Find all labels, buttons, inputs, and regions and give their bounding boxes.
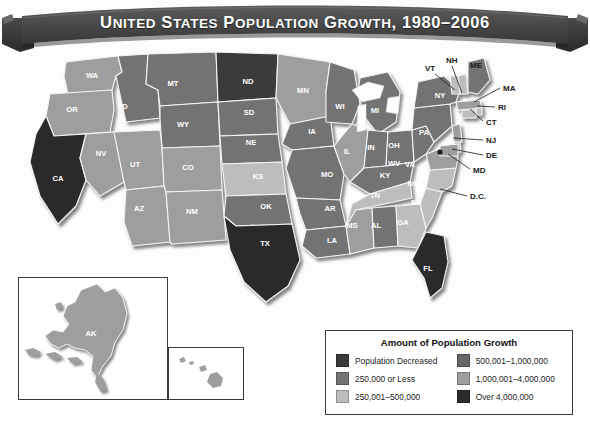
state-label-al: AL — [371, 221, 381, 230]
state-or — [46, 90, 114, 136]
state-label-wi: WI — [335, 102, 344, 111]
legend-swatch-t5 — [457, 390, 470, 403]
legend-swatch-t1 — [336, 372, 349, 385]
state-wy — [160, 102, 220, 148]
map-legend: Amount of Population Growth Population D… — [325, 330, 573, 415]
state-label-ut: UT — [130, 160, 140, 169]
state-label-ia: IA — [308, 127, 316, 136]
legend-label-t4: 1,000,001–4,000,000 — [476, 374, 555, 384]
aleutian-islands-2 — [45, 352, 63, 360]
state-label-nd: ND — [243, 77, 254, 86]
state-label-oh: OH — [388, 141, 399, 150]
hawaii-island-oahu — [189, 361, 194, 365]
legend-column-left: Population Decreased250,000 or Less250,0… — [336, 354, 445, 403]
state-tx — [224, 216, 300, 302]
aleutian-islands-3 — [67, 357, 83, 364]
lake-huron — [386, 96, 400, 114]
hawaii-inset-box: HI — [168, 347, 244, 400]
callout-label-de: DE — [486, 151, 498, 160]
state-label-la: LA — [327, 236, 338, 245]
state-label-or: OR — [66, 105, 78, 114]
hawaii-island-maui — [199, 365, 207, 372]
legend-swatch-decreased — [336, 354, 349, 367]
hawaii-label: HI — [194, 373, 202, 382]
callout-label-ri: RI — [498, 103, 506, 112]
state-vt — [450, 76, 460, 94]
state-sd — [218, 98, 278, 136]
state-label-tn: TN — [370, 191, 380, 200]
state-ri — [476, 108, 482, 115]
state-label-mn: MN — [297, 86, 309, 95]
callout-label-me: ME — [470, 61, 483, 70]
state-ok — [224, 194, 292, 226]
state-label-in: IN — [367, 143, 375, 152]
state-label-nm: NM — [186, 207, 198, 216]
legend-item-right-2: Over 4,000,000 — [457, 390, 562, 403]
aleutian-islands — [25, 348, 41, 356]
callout-label-ct: CT — [486, 118, 497, 127]
legend-item-left-0: Population Decreased — [336, 354, 445, 367]
callout-label-nj: NJ — [486, 136, 496, 145]
legend-label-t2: 250,001–500,000 — [355, 392, 420, 402]
state-label-wv: WV — [388, 159, 401, 168]
state-label-ky: KY — [380, 171, 391, 180]
state-label-fl: FL — [423, 264, 433, 273]
hawaii-island-big — [207, 372, 223, 388]
state-label-sc: SC — [411, 198, 422, 207]
state-label-tx: TX — [260, 239, 270, 248]
state-label-id: ID — [120, 102, 128, 111]
callout-label-dc: D.C. — [470, 192, 486, 201]
hawaii-island-kauai — [179, 357, 186, 363]
legend-item-right-1: 1,000,001–4,000,000 — [457, 372, 562, 385]
lake-michigan — [357, 104, 366, 132]
state-label-ny: NY — [435, 91, 446, 100]
callout-label-md: MD — [473, 166, 486, 175]
legend-label-decreased: Population Decreased — [355, 356, 437, 366]
alaska-island-small — [55, 302, 63, 310]
state-label-nv: NV — [96, 149, 107, 158]
legend-label-t3: 500,001–1,000,000 — [476, 356, 548, 366]
alaska-map-graphic: AK — [19, 278, 166, 398]
state-label-il: IL — [344, 147, 351, 156]
state-nj — [452, 124, 462, 142]
callout-label-vt: VT — [425, 64, 435, 73]
state-label-az: AZ — [134, 204, 144, 213]
state-az — [124, 186, 170, 246]
callout-label-nh: NH — [446, 56, 458, 65]
legend-swatch-t3 — [457, 354, 470, 367]
alaska-panhandle — [95, 374, 107, 392]
state-dc-marker — [437, 149, 442, 154]
state-ct — [462, 110, 476, 118]
legend-swatch-t2 — [336, 390, 349, 403]
state-label-wy: WY — [177, 120, 189, 129]
state-label-ne: NE — [246, 138, 257, 147]
state-label-ca: CA — [53, 174, 64, 183]
legend-column-right: 500,001–1,000,0001,000,001–4,000,000Over… — [455, 354, 562, 403]
callout-label-ma: MA — [503, 84, 516, 93]
state-nc — [426, 168, 456, 192]
state-label-co: CO — [182, 163, 193, 172]
legend-label-t5: Over 4,000,000 — [476, 392, 534, 402]
hawaii-map-graphic: HI — [169, 348, 242, 398]
legend-item-right-0: 500,001–1,000,000 — [457, 354, 562, 367]
state-label-ms: MS — [346, 221, 357, 230]
legend-item-left-1: 250,000 or Less — [336, 372, 445, 385]
state-mo — [286, 146, 344, 200]
state-label-mo: MO — [321, 170, 333, 179]
state-label-nc: NC — [408, 179, 419, 188]
state-label-pa: PA — [419, 128, 430, 137]
leader-line-dc — [440, 189, 467, 196]
legend-swatch-t4 — [457, 372, 470, 385]
state-label-sd: SD — [244, 108, 255, 117]
state-label-ok: OK — [260, 202, 272, 211]
state-label-mt: MT — [168, 79, 179, 88]
legend-label-t1: 250,000 or Less — [355, 374, 415, 384]
alaska-label: AK — [86, 329, 97, 338]
alaska-inset-box: AK — [18, 277, 168, 400]
legend-title: Amount of Population Growth — [336, 337, 562, 348]
legend-item-left-2: 250,001–500,000 — [336, 390, 445, 403]
state-ar — [296, 198, 346, 230]
state-label-ga: GA — [397, 218, 409, 227]
state-label-mi: MI — [371, 106, 379, 115]
state-label-ks: KS — [253, 172, 264, 181]
